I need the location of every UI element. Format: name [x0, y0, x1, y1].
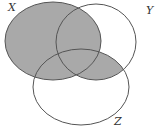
- label-z: Z: [113, 115, 122, 127]
- label-y: Y: [146, 4, 155, 17]
- venn-diagram: X Y Z: [0, 0, 157, 127]
- venn-svg: X Y Z: [0, 0, 157, 127]
- label-x: X: [7, 1, 17, 14]
